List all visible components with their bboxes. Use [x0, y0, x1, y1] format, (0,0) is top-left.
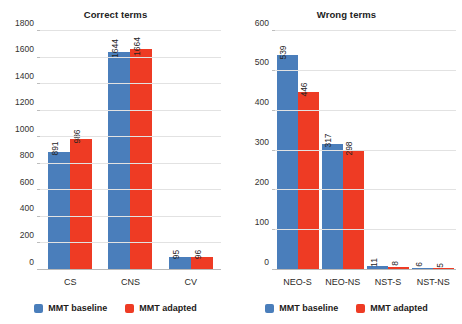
legend-label-baseline: MMT baseline	[279, 303, 338, 313]
legend-swatch-adapted-icon	[125, 304, 134, 313]
legend-item-adapted-left: MMT adapted	[125, 303, 197, 313]
bar-group: 118	[366, 31, 411, 270]
bar[interactable]: 298	[343, 151, 364, 270]
gridline	[275, 30, 456, 31]
y-axis-tickmark	[272, 70, 275, 71]
y-axis-tickmark	[37, 30, 40, 31]
bar-fill	[322, 144, 343, 270]
bar[interactable]: 539	[277, 55, 298, 270]
y-axis-tickmark	[272, 229, 275, 230]
x-axis-line	[275, 269, 456, 270]
bar[interactable]: 446	[298, 92, 319, 270]
gridline	[40, 136, 221, 137]
bar-value-label: 298	[345, 141, 354, 155]
gridline	[40, 163, 221, 164]
legend-item-adapted-right: MMT adapted	[356, 303, 428, 313]
y-axis-tickmark	[37, 242, 40, 243]
y-axis-tickmark	[37, 136, 40, 137]
bar-value-label: 446	[300, 82, 309, 96]
x-axis-labels-right: NEO-SNEO-NSNST-SNST-NS	[275, 274, 456, 290]
bar-group: 317298	[320, 31, 365, 270]
bar-fill	[48, 152, 70, 270]
y-axis-tickmark	[272, 150, 275, 151]
gridline	[40, 189, 221, 190]
bar-value-label: 11	[369, 258, 378, 267]
bar-value-label: 5	[435, 263, 444, 268]
y-axis-tick-label: 1200	[15, 98, 40, 107]
bar[interactable]: 986	[70, 139, 92, 270]
y-axis-tickmark	[37, 57, 40, 58]
bar-value-label: 6	[414, 262, 423, 267]
plot-area-right: 53944631729811865 0100200300400500600	[275, 31, 456, 270]
gridline	[40, 57, 221, 58]
legend-item-baseline-right: MMT baseline	[265, 303, 338, 313]
bar[interactable]: 1644	[108, 52, 130, 270]
bar-value-label: 891	[51, 142, 60, 156]
y-axis-tick-label: 500	[255, 58, 275, 67]
y-axis-tick-label: 600	[255, 18, 275, 27]
bar-value-label: 1664	[133, 37, 142, 56]
gridline	[40, 83, 221, 84]
y-axis-tickmark	[37, 83, 40, 84]
gridline	[275, 189, 456, 190]
y-axis-tickmark	[37, 110, 40, 111]
legend-label-adapted: MMT adapted	[139, 303, 197, 313]
legend-swatch-baseline-icon	[265, 304, 274, 313]
bar-value-label: 317	[324, 134, 333, 148]
y-axis-tick-label: 1800	[15, 18, 40, 27]
gridline	[40, 30, 221, 31]
bar-value-label: 539	[279, 45, 288, 59]
gridline	[275, 150, 456, 151]
y-axis-tick-label: 1000	[15, 124, 40, 133]
gridline	[275, 70, 456, 71]
chart-panel-correct-terms: Correct terms 891986164416649596 0200400…	[0, 0, 231, 324]
y-axis-tick-label: 800	[20, 151, 40, 160]
chart-panel-wrong-terms: Wrong terms 53944631729811865 0100200300…	[231, 0, 462, 324]
y-axis-tickmark	[272, 269, 275, 270]
y-axis-tick-label: 200	[255, 178, 275, 187]
bar-fill	[343, 151, 364, 270]
x-axis-line	[40, 269, 221, 270]
y-axis-tickmark	[37, 189, 40, 190]
legend-left: MMT baseline MMT adapted	[0, 298, 231, 318]
y-axis-tick-label: 400	[255, 98, 275, 107]
bar[interactable]: 317	[322, 144, 343, 270]
plot-area-left: 891986164416649596 020040060080010001200…	[40, 31, 221, 270]
bar-value-label: 1644	[111, 39, 120, 58]
legend-label-adapted: MMT adapted	[370, 303, 428, 313]
y-axis-tick-label: 300	[255, 138, 275, 147]
x-axis-category-label: CNS	[100, 274, 160, 290]
y-axis-tickmark	[272, 30, 275, 31]
bar-fill	[108, 52, 130, 270]
bar-group: 539446	[275, 31, 320, 270]
bar-fill	[277, 55, 298, 270]
x-axis-labels-left: CSCNSCV	[40, 274, 221, 290]
y-axis-tick-label: 100	[255, 217, 275, 226]
x-axis-category-label: NEO-S	[275, 274, 320, 290]
legend-swatch-baseline-icon	[34, 304, 43, 313]
figure-two-bar-charts: Correct terms 891986164416649596 0200400…	[0, 0, 462, 324]
plot-wrap-left: 891986164416649596 020040060080010001200…	[0, 21, 231, 324]
bar-group-container-right: 53944631729811865	[275, 31, 456, 270]
gridline	[275, 110, 456, 111]
gridline	[40, 216, 221, 217]
x-axis-category-label: NEO-NS	[320, 274, 365, 290]
bar-fill	[70, 139, 92, 270]
y-axis-tick-label: 400	[20, 204, 40, 213]
legend-item-baseline-left: MMT baseline	[34, 303, 107, 313]
gridline	[40, 242, 221, 243]
plot-wrap-right: 53944631729811865 0100200300400500600 NE…	[231, 21, 462, 324]
bar-value-label: 96	[193, 250, 202, 259]
y-axis-tick-label: 1400	[15, 71, 40, 80]
gridline	[275, 229, 456, 230]
bar-group: 65	[411, 31, 456, 270]
legend-label-baseline: MMT baseline	[48, 303, 107, 313]
y-axis-tick-label: 0	[264, 257, 275, 266]
x-axis-category-label: CV	[161, 274, 221, 290]
gridline	[40, 110, 221, 111]
legend-swatch-adapted-icon	[356, 304, 365, 313]
bar[interactable]: 891	[48, 152, 70, 270]
bar-group-container-left: 891986164416649596	[40, 31, 221, 270]
bar-value-label: 8	[390, 261, 399, 266]
y-axis-tickmark	[37, 216, 40, 217]
